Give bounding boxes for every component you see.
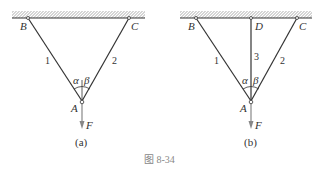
arrowhead-icon-b [249,121,254,129]
figure-caption: 图 8-34 [144,154,175,165]
label-a-b: A [239,102,247,114]
diagram-b: B D C A 1 3 2 α β F (b) [180,11,312,149]
bar-1-a [28,18,82,101]
bar-label-1-a: 1 [45,55,50,66]
bar-label-1-b: 1 [214,55,219,66]
bar-label-3-b: 3 [254,51,259,62]
force-label-b: F [254,119,262,131]
angle-beta-a: β [83,74,90,86]
pin-b-a [27,17,30,20]
sublabel-b: (b) [244,136,257,149]
bar-1-b [196,18,251,101]
arrowhead-icon-a [80,121,85,129]
force-label-a: F [85,119,93,131]
sublabel-a: (a) [75,136,88,149]
label-b-a: B [20,20,27,32]
angle-alpha-a: α [73,74,79,86]
angle-alpha-b: α [242,74,248,86]
label-c-b: C [299,20,307,32]
label-b-b: B [188,20,195,32]
label-a-a: A [70,102,78,114]
diagram-a: B C A 1 2 α β F (a) [12,11,145,149]
ceiling-hatch-a [12,11,145,18]
angle-beta-b: β [252,74,259,86]
label-d-b: D [254,20,263,32]
joint-a-b [249,100,253,104]
bar-label-2-a: 2 [112,55,117,66]
ceiling-hatch-b [180,11,312,18]
pin-d-b [250,17,253,20]
joint-a-a [80,100,84,104]
pin-b-b [195,17,198,20]
label-c-a: C [131,20,139,32]
bar-label-2-b: 2 [280,55,285,66]
